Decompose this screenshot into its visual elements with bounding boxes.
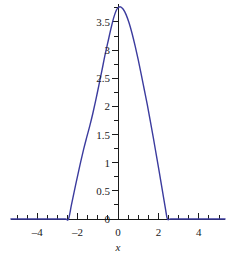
y-axis-tick-label: 0.5 — [96, 185, 110, 196]
y-axis-tick-label: 3.5 — [96, 16, 110, 27]
x-axis-tick-label: –4 — [32, 227, 43, 238]
y-axis-tick-label: 1 — [105, 157, 111, 168]
x-axis-tick-label: 2 — [156, 227, 162, 238]
x-axis-label: x — [116, 242, 121, 253]
x-axis-origin-label: 0 — [115, 227, 121, 238]
x-axis-tick-label: –2 — [72, 227, 83, 238]
x-axis-tick-label: 4 — [196, 227, 202, 238]
y-axis-tick-label: 2.5 — [96, 73, 110, 84]
y-axis-tick-label: 1.5 — [96, 129, 110, 140]
y-axis-tick-label: 0 — [105, 214, 111, 225]
y-axis-tick-label: 2 — [105, 101, 111, 112]
plot-canvas — [0, 0, 249, 258]
plot-figure: 00.511.522.533.5–4–2240x — [0, 0, 249, 258]
y-axis-tick-label: 3 — [105, 45, 111, 56]
